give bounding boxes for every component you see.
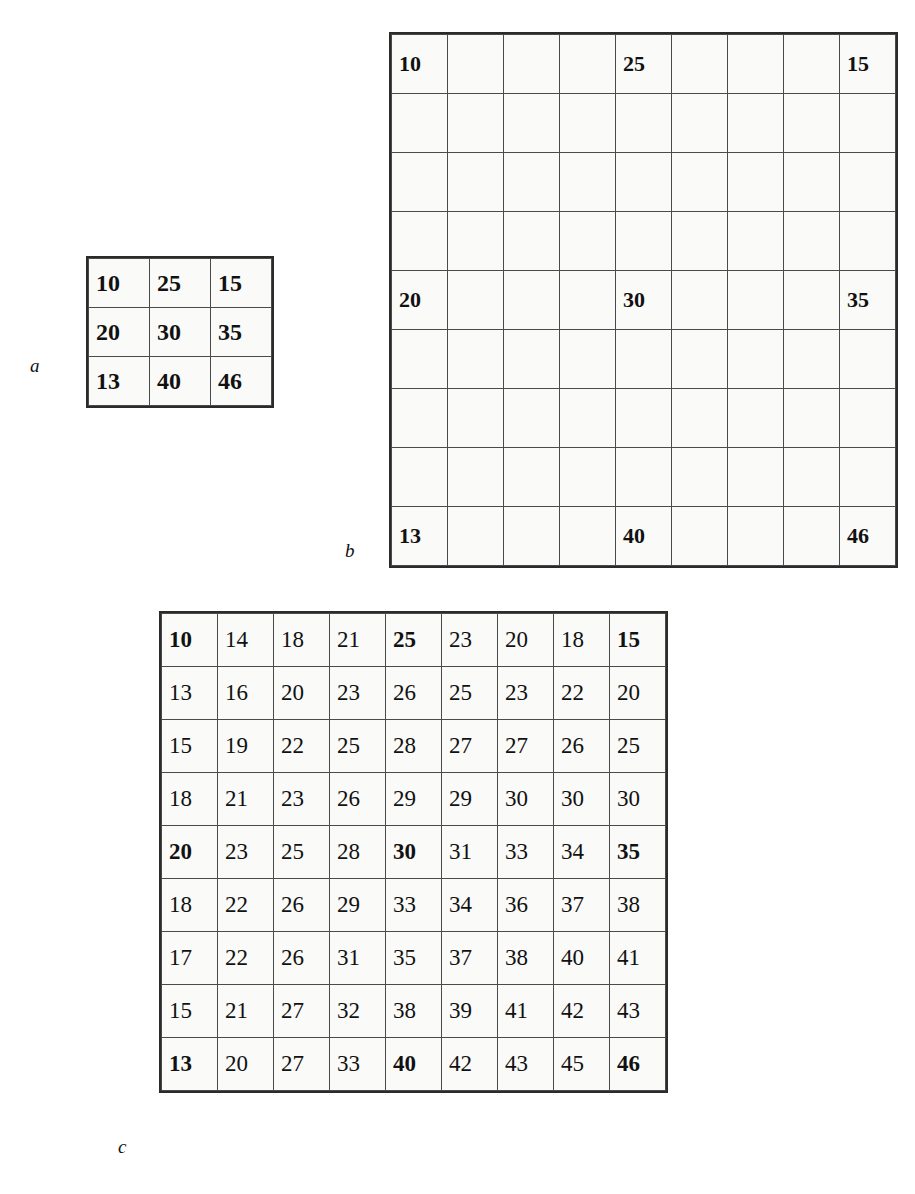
grid-cell [728, 448, 784, 507]
grid-row: 152127323839414243 [162, 985, 666, 1038]
grid-cell [616, 330, 672, 389]
grid-cell [728, 330, 784, 389]
grid-row [392, 212, 896, 271]
grid-cell [560, 35, 616, 94]
grid-cell: 31 [442, 826, 498, 879]
grid-cell: 25 [442, 667, 498, 720]
grid-cell: 16 [218, 667, 274, 720]
grid-cell: 21 [218, 773, 274, 826]
grid-cell [560, 389, 616, 448]
grid-cell: 13 [162, 667, 218, 720]
grid-cell: 30 [616, 271, 672, 330]
grid-row: 101418212523201815 [162, 614, 666, 667]
grid-cell: 19 [218, 720, 274, 773]
grid-cell [616, 94, 672, 153]
grid-cell [840, 94, 896, 153]
grid-cell: 40 [616, 507, 672, 566]
grid-cell: 35 [840, 271, 896, 330]
grid-cell [392, 212, 448, 271]
grid-cell [784, 271, 840, 330]
grid-cell: 30 [386, 826, 442, 879]
grid-cell: 25 [150, 259, 211, 308]
grid-cell: 37 [554, 879, 610, 932]
grid-row: 151922252827272625 [162, 720, 666, 773]
grid-cell: 23 [498, 667, 554, 720]
grid-cell: 26 [274, 879, 330, 932]
panel-c-table: 1014182125232018151316202326252322201519… [161, 613, 666, 1091]
grid-cell: 15 [610, 614, 666, 667]
grid-cell: 37 [442, 932, 498, 985]
grid-cell [504, 271, 560, 330]
grid-cell [728, 153, 784, 212]
grid-cell [784, 330, 840, 389]
grid-cell: 10 [162, 614, 218, 667]
grid-cell [560, 212, 616, 271]
grid-cell [560, 94, 616, 153]
grid-cell [840, 448, 896, 507]
grid-cell [728, 212, 784, 271]
grid-cell [784, 35, 840, 94]
grid-cell [784, 212, 840, 271]
grid-row [392, 94, 896, 153]
grid-cell [784, 507, 840, 566]
grid-cell: 40 [150, 357, 211, 406]
grid-row: 134046 [392, 507, 896, 566]
grid-cell [672, 271, 728, 330]
grid-cell: 21 [330, 614, 386, 667]
grid-cell [728, 94, 784, 153]
grid-cell [504, 153, 560, 212]
panel-c-table-body: 1014182125232018151316202326252322201519… [162, 614, 666, 1091]
grid-row: 102515 [392, 35, 896, 94]
grid-cell: 28 [386, 720, 442, 773]
grid-cell [504, 389, 560, 448]
grid-cell [616, 212, 672, 271]
grid-cell: 25 [330, 720, 386, 773]
grid-row: 202325283031333435 [162, 826, 666, 879]
grid-cell [448, 153, 504, 212]
grid-cell: 46 [211, 357, 272, 406]
figure-page: { "figure": { "panels": [ { "id": "a", "… [0, 0, 915, 1194]
panel-a-outer-border: 102515203035134046 [86, 256, 274, 408]
panel-c-outer-border: 1014182125232018151316202326252322201519… [159, 611, 668, 1093]
grid-cell: 18 [274, 614, 330, 667]
grid-cell [728, 507, 784, 566]
grid-cell [784, 94, 840, 153]
panel-a-label: a [30, 355, 40, 377]
panel-b-table: 102515203035134046 [391, 34, 896, 566]
grid-cell: 23 [442, 614, 498, 667]
panel-c-label: c [118, 1136, 126, 1158]
grid-cell: 40 [386, 1038, 442, 1091]
grid-cell: 22 [218, 879, 274, 932]
grid-cell: 33 [386, 879, 442, 932]
grid-cell: 38 [498, 932, 554, 985]
grid-cell: 30 [150, 308, 211, 357]
grid-cell: 21 [218, 985, 274, 1038]
grid-cell [560, 507, 616, 566]
grid-cell [672, 94, 728, 153]
grid-cell: 23 [218, 826, 274, 879]
grid-cell [672, 35, 728, 94]
grid-cell [672, 507, 728, 566]
grid-cell: 25 [274, 826, 330, 879]
grid-row: 102515 [89, 259, 272, 308]
grid-cell [392, 448, 448, 507]
grid-cell: 22 [274, 720, 330, 773]
grid-row: 182226293334363738 [162, 879, 666, 932]
grid-cell: 18 [162, 773, 218, 826]
grid-cell [672, 330, 728, 389]
grid-cell: 27 [498, 720, 554, 773]
grid-cell: 33 [498, 826, 554, 879]
grid-cell [840, 153, 896, 212]
grid-cell [392, 153, 448, 212]
grid-cell [840, 330, 896, 389]
grid-cell [784, 389, 840, 448]
grid-cell: 35 [610, 826, 666, 879]
grid-cell: 23 [330, 667, 386, 720]
grid-cell: 45 [554, 1038, 610, 1091]
grid-cell: 26 [330, 773, 386, 826]
grid-cell [784, 153, 840, 212]
grid-cell: 38 [386, 985, 442, 1038]
grid-cell [672, 389, 728, 448]
grid-cell: 43 [498, 1038, 554, 1091]
grid-cell: 28 [330, 826, 386, 879]
